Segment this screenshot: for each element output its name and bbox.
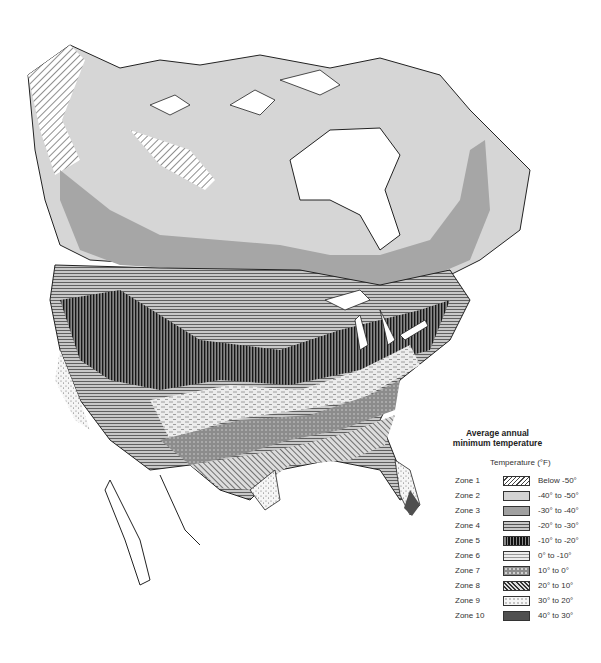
legend-row-zone-10: Zone 1040° to 30° (440, 608, 600, 623)
legend-row-zone-3: Zone 3-30° to -40° (440, 503, 600, 518)
zone-7-swatch (503, 566, 530, 576)
zone-9-swatch (503, 596, 530, 606)
zone-label: Zone 1 (440, 476, 503, 485)
legend-row-zone-2: Zone 2-40° to -50° (440, 488, 600, 503)
legend-row-zone-5: Zone 5-10° to -20° (440, 533, 600, 548)
legend-title: Average annual minimum temperature (440, 428, 555, 448)
zone-5-swatch (503, 536, 530, 546)
legend-row-zone-7: Zone 710° to 0° (440, 563, 600, 578)
zone-range: 40° to 30° (538, 611, 573, 620)
legend-row-zone-9: Zone 930° to 20° (440, 593, 600, 608)
legend-title-line2: minimum temperature (440, 438, 555, 448)
zone-range: 0° to -10° (538, 551, 572, 560)
legend-row-zone-6: Zone 60° to -10° (440, 548, 600, 563)
zone-4-swatch (503, 521, 530, 531)
legend-subtitle: Temperature (°F) (490, 458, 600, 467)
zone-range: 20° to 10° (538, 581, 573, 590)
zone-range: -20° to -30° (538, 521, 579, 530)
zone-label: Zone 2 (440, 491, 503, 500)
zone-label: Zone 9 (440, 596, 503, 605)
zone-label: Zone 10 (440, 611, 503, 620)
zone-label: Zone 3 (440, 506, 503, 515)
zone-10-swatch (503, 611, 530, 621)
zone-2-swatch (503, 491, 530, 501)
zone-label: Zone 4 (440, 521, 503, 530)
zone-label: Zone 8 (440, 581, 503, 590)
zone-6-swatch (503, 551, 530, 561)
zone-range: 10° to 0° (538, 566, 569, 575)
zone-range: Below -50° (538, 476, 577, 485)
zone-range: -10° to -20° (538, 536, 579, 545)
legend-row-zone-8: Zone 820° to 10° (440, 578, 600, 593)
zone-8-swatch (503, 581, 530, 591)
zone-label: Zone 7 (440, 566, 503, 575)
zone-range: -40° to -50° (538, 491, 579, 500)
legend-title-line1: Average annual (440, 428, 555, 438)
zone-3-swatch (503, 506, 530, 516)
legend-row-zone-4: Zone 4-20° to -30° (440, 518, 600, 533)
zone-label: Zone 6 (440, 551, 503, 560)
zone-label: Zone 5 (440, 536, 503, 545)
legend-row-zone-1: Zone 1Below -50° (440, 473, 600, 488)
zone-1-swatch (503, 476, 530, 486)
zone-range: 30° to 20° (538, 596, 573, 605)
map-legend: Average annual minimum temperature Tempe… (440, 428, 600, 623)
zone-range: -30° to -40° (538, 506, 579, 515)
legend-rows: Zone 1Below -50° Zone 2-40° to -50° Zone… (440, 473, 600, 623)
